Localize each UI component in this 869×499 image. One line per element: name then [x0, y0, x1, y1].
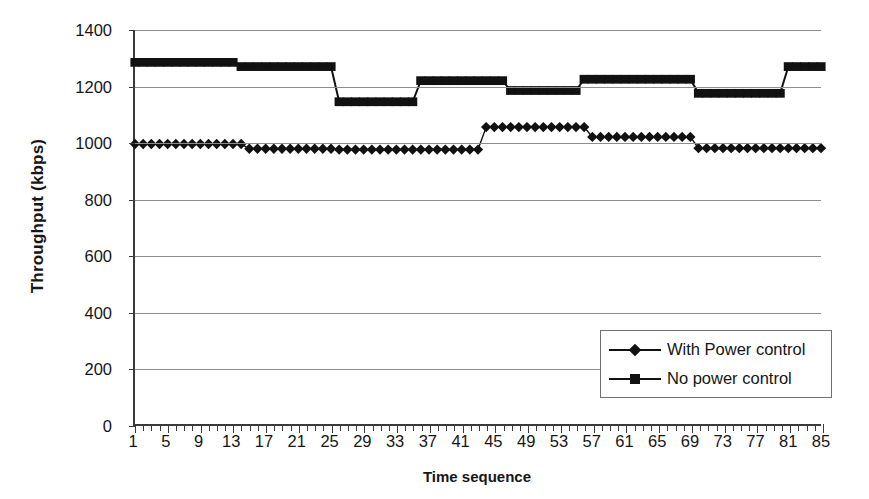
data-point-square	[212, 58, 221, 67]
data-point-square	[816, 62, 825, 71]
x-axis-tick	[250, 424, 251, 431]
series-with-power-control	[130, 122, 826, 155]
x-axis-tick	[160, 424, 161, 431]
x-axis-tick	[307, 424, 308, 431]
x-axis-tick	[545, 424, 546, 431]
data-point-square	[620, 75, 629, 84]
x-axis-tick	[717, 424, 718, 431]
data-point-square	[375, 97, 384, 106]
x-axis-tick-label: 45	[484, 432, 502, 451]
x-axis-tick	[676, 424, 677, 431]
x-axis-tick	[389, 424, 390, 431]
data-point-square	[416, 76, 425, 85]
y-axis-tick	[129, 143, 135, 144]
square-marker-icon	[609, 372, 661, 386]
x-axis-tick	[192, 424, 193, 431]
data-point-square	[408, 97, 417, 106]
data-point-square	[253, 62, 262, 71]
x-axis-tick	[438, 424, 439, 431]
x-axis-tick	[520, 424, 521, 431]
x-axis-tick	[282, 424, 283, 431]
data-point-square	[482, 76, 491, 85]
data-point-square	[351, 97, 360, 106]
x-axis-tick	[225, 424, 226, 431]
x-axis-tick	[798, 424, 799, 431]
data-point-square	[612, 75, 621, 84]
data-point-square	[163, 58, 172, 67]
x-axis-tick-label: 13	[222, 432, 240, 451]
x-axis-tick	[643, 424, 644, 431]
x-axis-tick	[291, 424, 292, 431]
data-point-square	[759, 89, 768, 98]
legend-item-with-power-control: With Power control	[609, 340, 821, 359]
data-point-square	[784, 62, 793, 71]
x-axis-tick	[479, 424, 480, 431]
data-point-square	[228, 58, 237, 67]
data-point-square	[318, 62, 327, 71]
x-axis-tick	[413, 424, 414, 431]
data-point-square	[588, 75, 597, 84]
data-point-square	[294, 62, 303, 71]
x-axis-tick	[651, 424, 652, 431]
x-axis-tick	[782, 424, 783, 431]
data-point-square	[776, 89, 785, 98]
x-axis-tick	[585, 424, 586, 431]
x-axis-tick	[151, 424, 152, 431]
x-axis-tick	[184, 424, 185, 431]
x-axis-tick	[217, 424, 218, 431]
x-axis-tick	[373, 424, 374, 431]
data-point-square	[686, 75, 695, 84]
data-point-square	[449, 76, 458, 85]
data-point-square	[424, 76, 433, 85]
data-point-diamond	[326, 144, 336, 154]
data-point-square	[335, 97, 344, 106]
data-point-square	[629, 75, 638, 84]
data-point-square	[735, 89, 744, 98]
x-axis-tick	[446, 424, 447, 431]
data-point-square	[661, 75, 670, 84]
x-axis-tick	[315, 424, 316, 431]
x-axis-tick-label: 85	[812, 432, 830, 451]
gridline	[135, 200, 821, 201]
data-point-square	[457, 76, 466, 85]
legend-item-no-power-control: No power control	[609, 369, 821, 388]
data-point-square	[261, 62, 270, 71]
x-axis-tick	[209, 424, 210, 431]
x-axis-tick	[602, 424, 603, 431]
data-point-diamond	[473, 144, 483, 154]
data-point-square	[743, 89, 752, 98]
data-point-square	[800, 62, 809, 71]
data-point-square	[155, 58, 164, 67]
y-axis-tick	[129, 256, 135, 257]
data-point-diamond	[816, 143, 826, 153]
data-point-square	[277, 62, 286, 71]
x-axis-tick	[569, 424, 570, 431]
x-axis-tick	[241, 424, 242, 431]
x-axis-tick	[766, 424, 767, 431]
data-point-square	[678, 75, 687, 84]
data-point-square	[580, 75, 589, 84]
data-point-square	[130, 58, 139, 67]
legend-label: No power control	[667, 369, 792, 388]
data-point-square	[669, 75, 678, 84]
data-point-square	[441, 76, 450, 85]
x-axis-tick	[577, 424, 578, 431]
data-point-square	[710, 89, 719, 98]
data-point-square	[343, 97, 352, 106]
x-axis-tick	[536, 424, 537, 431]
data-point-square	[653, 75, 662, 84]
data-point-square	[245, 62, 254, 71]
x-axis-tick	[618, 424, 619, 431]
y-axis-tick-label: 1200	[48, 77, 112, 96]
data-point-square	[637, 75, 646, 84]
x-axis-tick	[454, 424, 455, 431]
x-axis-tick	[667, 424, 668, 431]
x-axis-title: Time sequence	[133, 468, 821, 485]
data-point-square	[392, 97, 401, 106]
x-axis-tick	[749, 424, 750, 431]
x-axis-tick-labels: 1591317212529333741454953576165697377818…	[133, 432, 821, 458]
y-axis-title: Throughput (kbps)	[28, 86, 48, 346]
y-axis-tick	[129, 87, 135, 88]
y-axis-tick-label: 0	[48, 417, 112, 436]
throughput-chart: Throughput (kbps) 0200400600800100012001…	[0, 0, 869, 499]
